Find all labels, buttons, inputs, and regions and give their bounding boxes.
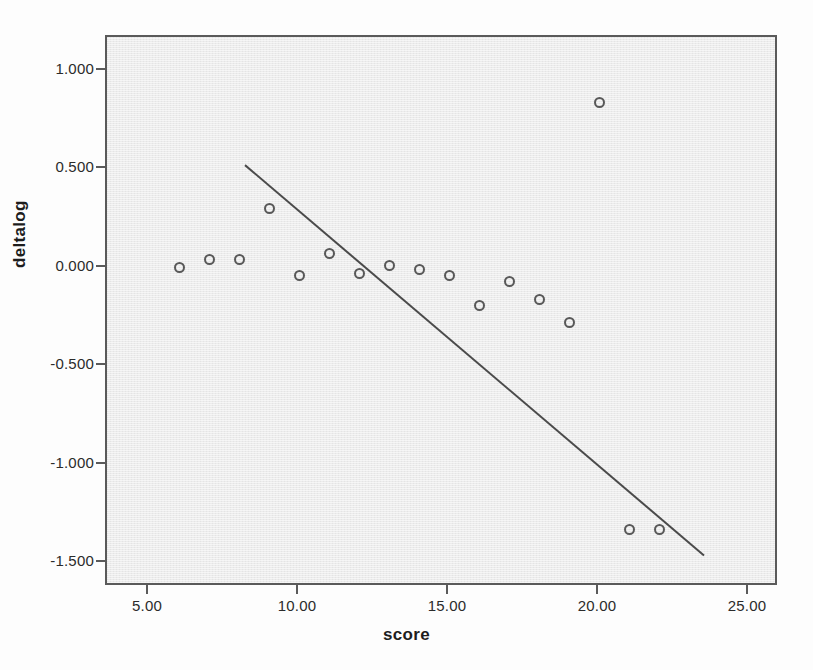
- y-axis-tick-label: 0.500: [55, 158, 94, 175]
- x-axis-tick-label: 25.00: [728, 597, 767, 614]
- y-axis-tick-label: -0.500: [50, 355, 94, 372]
- y-axis-tick: [96, 68, 105, 70]
- data-point: [384, 260, 395, 271]
- y-axis-title: deltalog: [10, 200, 30, 268]
- x-axis-tick-label: 10.00: [278, 597, 317, 614]
- data-point: [474, 300, 485, 311]
- data-point: [564, 317, 575, 328]
- data-point: [294, 270, 305, 281]
- data-point: [414, 264, 425, 275]
- y-axis-tick: [96, 265, 105, 267]
- x-axis-tick: [296, 585, 298, 594]
- x-axis-tick: [746, 585, 748, 594]
- x-axis-tick-label: 5.00: [132, 597, 162, 614]
- data-point: [324, 248, 335, 259]
- data-points-layer: [107, 37, 775, 583]
- x-axis-tick-label: 20.00: [578, 597, 617, 614]
- x-axis-tick: [446, 585, 448, 594]
- data-point: [594, 97, 605, 108]
- data-point: [354, 268, 365, 279]
- y-axis-tick-label: -1.000: [50, 454, 94, 471]
- data-point: [654, 524, 665, 535]
- data-point: [174, 262, 185, 273]
- data-point: [204, 254, 215, 265]
- data-point: [234, 254, 245, 265]
- plot-panel: [105, 35, 777, 585]
- data-point: [264, 203, 275, 214]
- y-axis-tick-label: 1.000: [55, 60, 94, 77]
- x-axis-tick: [146, 585, 148, 594]
- scatter-plot-figure: deltalog score 1.0000.5000.000-0.500-1.0…: [0, 0, 813, 670]
- x-axis-tick-label: 15.00: [428, 597, 467, 614]
- data-point: [444, 270, 455, 281]
- data-point: [624, 524, 635, 535]
- y-axis-tick: [96, 462, 105, 464]
- y-axis-tick-label: 0.000: [55, 257, 94, 274]
- y-axis-tick-label: -1.500: [50, 552, 94, 569]
- y-axis-tick: [96, 363, 105, 365]
- x-axis-title: score: [0, 625, 813, 645]
- y-axis-tick: [96, 166, 105, 168]
- data-point: [534, 294, 545, 305]
- y-axis-tick: [96, 560, 105, 562]
- data-point: [504, 276, 515, 287]
- x-axis-tick: [596, 585, 598, 594]
